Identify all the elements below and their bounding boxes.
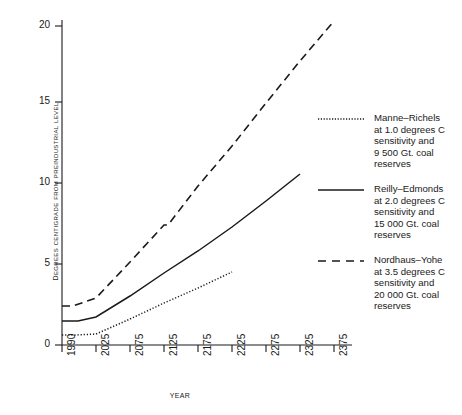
x-tick-label-2325: 2325: [304, 316, 315, 356]
x-tick-label-1990: 1990: [66, 316, 77, 356]
x-tick-label-2175: 2175: [202, 316, 213, 356]
series-line-nordhaus-yohe: [62, 21, 334, 306]
legend-entry-nordhaus-yohe: Nordhaus–Yohe at 3.5 degrees C sensitivi…: [318, 254, 462, 312]
y-tick-label-15: 15: [24, 95, 50, 106]
y-tick-label-5: 5: [24, 257, 50, 268]
x-axis-title: Year: [0, 389, 360, 400]
x-tick-label-2225: 2225: [236, 316, 247, 356]
chart-figure: 0 5 10 15 20 1990 2025 2075 2125 2175 22…: [0, 0, 462, 415]
legend-label-manne-richels: Manne–Richels at 1.0 degrees C sensitivi…: [374, 112, 462, 170]
solid-line-sample: [318, 188, 364, 192]
x-tick-label-2025: 2025: [100, 316, 111, 356]
chart-legend: Manne–Richels at 1.0 degrees C sensitivi…: [318, 112, 462, 325]
series-line-reilly-edmonds: [62, 174, 300, 321]
x-tick-label-2275: 2275: [270, 316, 281, 356]
y-tick-label-10: 10: [24, 176, 50, 187]
legend-entry-reilly-edmonds: Reilly–Edmonds at 2.0 degrees C sensitiv…: [318, 183, 462, 241]
y-axis-title: Degrees centigrade from preindustrial le…: [49, 42, 60, 342]
legend-label-reilly-edmonds: Reilly–Edmonds at 2.0 degrees C sensitiv…: [374, 183, 462, 241]
dashed-line-sample: [318, 259, 364, 263]
y-tick-label-20: 20: [24, 19, 50, 30]
y-tick-label-0: 0: [24, 338, 50, 349]
legend-entry-manne-richels: Manne–Richels at 1.0 degrees C sensitivi…: [318, 112, 462, 170]
dotted-line-sample: [318, 117, 364, 121]
x-tick-label-2075: 2075: [134, 316, 145, 356]
legend-label-nordhaus-yohe: Nordhaus–Yohe at 3.5 degrees C sensitivi…: [374, 254, 462, 312]
x-tick-label-2125: 2125: [168, 316, 179, 356]
